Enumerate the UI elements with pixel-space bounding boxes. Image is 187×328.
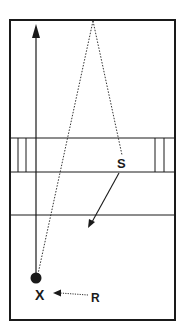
receiver-label: R: [91, 291, 100, 305]
drill-diagram: S X R: [0, 0, 187, 328]
arrow-down-left-icon: [88, 219, 95, 228]
setter-label: S: [117, 156, 126, 171]
arrow-up-icon: [32, 24, 40, 38]
net-band: [10, 138, 175, 172]
arrow-left-icon: [53, 290, 61, 297]
receiver-dotted-line: [60, 293, 88, 295]
dotted-ball-path: [38, 21, 122, 274]
player-x-label: X: [35, 287, 45, 303]
ball-icon: [31, 273, 42, 284]
